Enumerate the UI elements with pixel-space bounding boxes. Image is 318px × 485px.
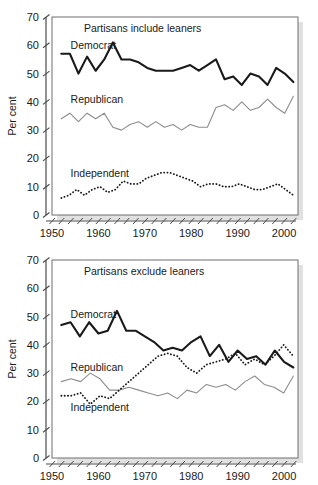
y-tick-label: 10 xyxy=(27,181,39,193)
figure-partisanship-trends: 010203040506070195019601970198019902000P… xyxy=(0,0,318,485)
y-tick-label: 0 xyxy=(33,209,39,221)
x-tick-label: 1970 xyxy=(133,227,157,239)
y-tick-label: 20 xyxy=(27,395,39,407)
x-tick-label: 1950 xyxy=(40,470,64,482)
series-label-independent: Independent xyxy=(71,401,129,413)
x-tick-label: 1980 xyxy=(179,470,203,482)
y-tick-label: 30 xyxy=(27,124,39,136)
y-tick-label: 0 xyxy=(33,452,39,464)
x-tick-label: 1950 xyxy=(40,227,64,239)
chart-layers-top: 010203040506070195019601970198019902000P… xyxy=(6,11,303,239)
series-label-democrat: Democrat xyxy=(71,308,117,320)
chart-title: Partisans include leaners xyxy=(84,22,201,34)
y-tick-label: 50 xyxy=(27,311,39,323)
plot-frame xyxy=(52,260,298,458)
chart-svg-include-leaners: 010203040506070195019601970198019902000P… xyxy=(0,0,318,242)
y-axis-title: Per cent xyxy=(6,339,18,378)
chart-panel-exclude-leaners: 010203040506070195019601970198019902000P… xyxy=(0,243,318,485)
chart-layers-bottom: 010203040506070195019601970198019902000P… xyxy=(6,254,303,482)
y-tick-label: 30 xyxy=(27,367,39,379)
series-label-republican: Republican xyxy=(71,93,124,105)
x-tick-label: 1980 xyxy=(179,227,203,239)
y-tick-label: 40 xyxy=(27,339,39,351)
x-tick-label: 1960 xyxy=(86,470,110,482)
x-tick-label: 1960 xyxy=(86,227,110,239)
x-tick-label: 1990 xyxy=(225,227,249,239)
x-tick-label: 2000 xyxy=(272,227,296,239)
chart-title: Partisans exclude leaners xyxy=(84,265,204,277)
y-tick-label: 50 xyxy=(27,68,39,80)
x-tick-label: 2000 xyxy=(272,470,296,482)
y-tick-label: 60 xyxy=(27,39,39,51)
y-tick-label: 10 xyxy=(27,424,39,436)
y-tick-label: 20 xyxy=(27,152,39,164)
y-axis-title: Per cent xyxy=(6,96,18,135)
series-label-republican: Republican xyxy=(71,361,124,373)
y-tick-label: 40 xyxy=(27,96,39,108)
y-tick-label: 70 xyxy=(27,11,39,23)
chart-svg-exclude-leaners: 010203040506070195019601970198019902000P… xyxy=(0,243,318,485)
chart-panel-include-leaners: 010203040506070195019601970198019902000P… xyxy=(0,0,318,242)
y-tick-label: 60 xyxy=(27,282,39,294)
x-tick-label: 1990 xyxy=(225,470,249,482)
x-tick-label: 1970 xyxy=(133,470,157,482)
y-tick-label: 70 xyxy=(27,254,39,266)
series-label-democrat: Democrat xyxy=(71,39,117,51)
series-label-independent: Independent xyxy=(71,167,129,179)
